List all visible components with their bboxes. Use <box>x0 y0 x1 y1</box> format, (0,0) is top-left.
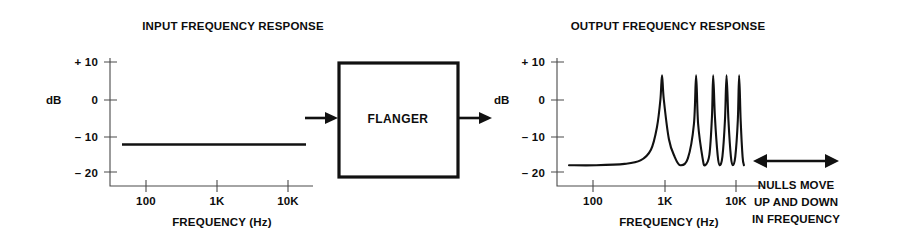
output-ytick-minus20: – 20 <box>522 167 545 179</box>
output-ytick-0: 0 <box>538 94 545 106</box>
annotation-line-1: NULLS MOVE <box>758 179 835 191</box>
arrow-right-icon-input <box>325 112 338 124</box>
output-x-axis-title: FREQUENCY (Hz) <box>619 216 719 228</box>
input-xtick-100: 100 <box>136 195 156 207</box>
input-chart-title: INPUT FREQUENCY RESPONSE <box>142 20 324 32</box>
double-arrow-horizontal-icon-right <box>825 154 839 168</box>
input-y-axis-title: dB <box>46 94 61 106</box>
input-xtick-1k: 1K <box>209 195 225 207</box>
output-response-curve <box>569 75 744 165</box>
input-ytick-plus10: + 10 <box>74 56 98 68</box>
output-xtick-1k: 1K <box>657 195 673 207</box>
arrow-right-icon-output <box>479 112 492 124</box>
input-chart-group: INPUT FREQUENCY RESPONSE + 10 0 – 10 – 2… <box>46 20 324 228</box>
input-ytick-minus20: – 20 <box>75 167 98 179</box>
output-axis-lines <box>557 58 762 186</box>
input-axis-lines <box>110 58 313 186</box>
output-chart-title: OUTPUT FREQUENCY RESPONSE <box>571 20 766 32</box>
output-chart-group: OUTPUT FREQUENCY RESPONSE + 10 0 – 10 – … <box>494 20 765 228</box>
input-x-axis-title: FREQUENCY (Hz) <box>172 216 272 228</box>
output-y-axis-title: dB <box>494 94 509 106</box>
output-xtick-100: 100 <box>583 195 603 207</box>
input-ytick-0: 0 <box>91 94 98 106</box>
output-xtick-10k: 10K <box>725 195 747 207</box>
flanger-frequency-response-diagram: INPUT FREQUENCY RESPONSE + 10 0 – 10 – 2… <box>0 0 923 240</box>
annotation-line-3: IN FREQUENCY <box>752 213 840 225</box>
input-ytick-minus10: – 10 <box>75 131 98 143</box>
figure-canvas: INPUT FREQUENCY RESPONSE + 10 0 – 10 – 2… <box>0 0 923 240</box>
output-ytick-plus10: + 10 <box>521 56 545 68</box>
input-xtick-10k: 10K <box>277 195 299 207</box>
double-arrow-horizontal-icon-left <box>753 154 767 168</box>
output-ytick-minus10: – 10 <box>522 131 545 143</box>
annotation-line-2: UP AND DOWN <box>754 196 838 208</box>
flanger-label: FLANGER <box>368 112 429 126</box>
annotation-group: NULLS MOVE UP AND DOWN IN FREQUENCY <box>752 154 840 225</box>
flanger-block-group: FLANGER <box>305 63 492 177</box>
